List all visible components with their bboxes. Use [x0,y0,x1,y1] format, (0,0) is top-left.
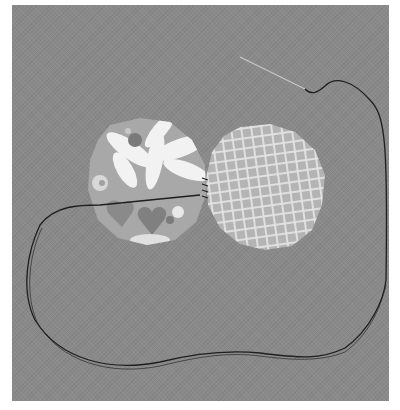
needle [240,57,305,89]
floral-fabric-circle [88,109,211,246]
thread [27,81,387,366]
gingham-fabric-circle [206,124,325,250]
photo-scene [0,0,400,410]
thread-second-strand [30,228,386,369]
